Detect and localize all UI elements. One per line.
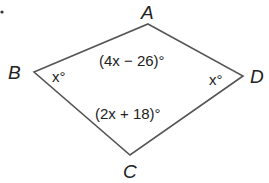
vertex-label-C: C <box>123 161 137 182</box>
vertex-label-A: A <box>140 2 154 23</box>
angle-label-B: x° <box>52 68 66 85</box>
quadrilateral-ABCD <box>34 24 243 155</box>
angle-label-C: (2x + 18)° <box>95 105 161 122</box>
angle-label-D: x° <box>209 71 223 88</box>
kite-diagram: A B C D (4x − 26)° x° (2x + 18)° x° <box>0 0 269 183</box>
vertex-label-B: B <box>8 62 21 83</box>
bullet-dot <box>0 10 3 13</box>
angle-label-A: (4x − 26)° <box>99 52 165 69</box>
vertex-label-D: D <box>250 66 264 87</box>
